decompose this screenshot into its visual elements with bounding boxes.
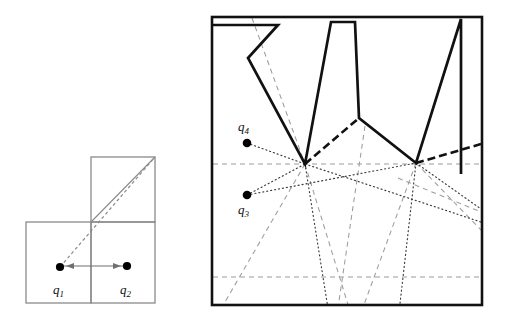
arrow-head-left [66,263,74,269]
zigzag-polyline [212,19,461,174]
right-panel: q4 q3 [212,17,482,321]
figure-root: q1 q2 [0,0,505,321]
ray-q3-to-left-valley [247,164,305,195]
point-q1 [56,263,64,271]
arrow-head-right [113,263,121,269]
dotted-visibility-rays [247,143,481,321]
label-q1: q1 [53,282,64,299]
ray-left-valley-down [305,164,330,321]
point-q2 [123,262,131,270]
dashed-bisector-network [214,18,481,321]
ray-right-valley-down [398,163,416,321]
dashed-ray-q1 [60,157,155,267]
thick-dashed-segments [305,118,481,164]
label-q2: q2 [120,282,132,299]
point-q3 [243,191,252,200]
bisector-line-1 [252,18,305,164]
bisector-line-4 [336,126,365,321]
bisector-line-3 [305,164,353,321]
left-panel: q1 q2 [26,157,155,303]
ray-q3-to-right-valley [247,163,416,195]
bisector-line-2 [214,164,305,321]
thick-dash-right [416,144,481,163]
ray-q3-extended-right [416,163,481,209]
figure-canvas: q1 q2 [0,0,505,321]
bisector-line-5 [358,163,416,321]
label-q3: q3 [238,202,250,219]
square-diagonal [91,157,155,222]
point-q4 [243,139,252,148]
bounding-box [212,17,482,305]
label-q4: q4 [238,119,250,136]
ray-q4-extended [305,164,481,222]
bisector-line-6 [416,163,481,230]
